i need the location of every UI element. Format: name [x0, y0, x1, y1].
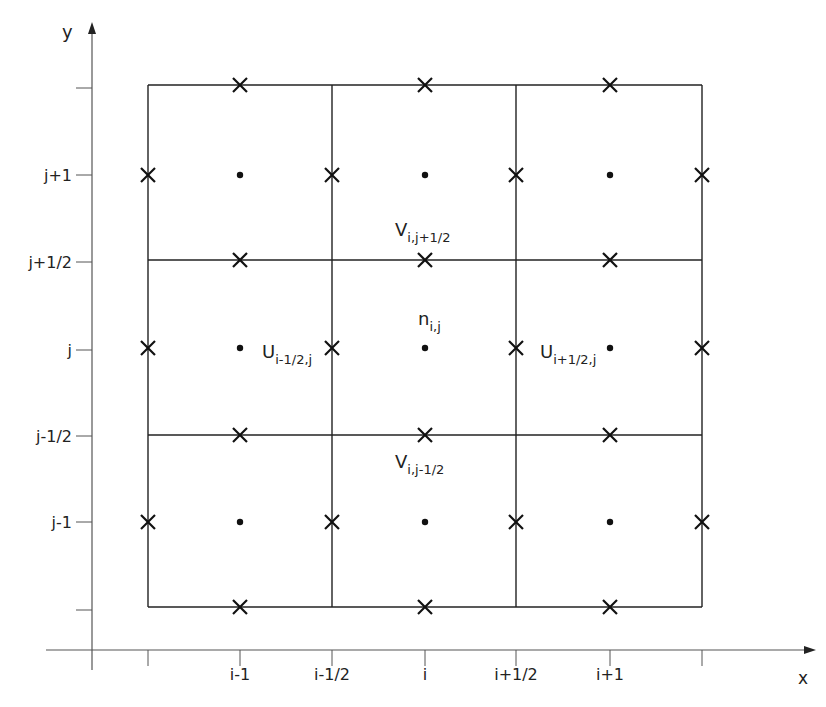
- dot-icon: [237, 345, 243, 351]
- dot-icon: [607, 345, 613, 351]
- y-tick-label: j-1: [51, 513, 72, 532]
- dot-icon: [607, 172, 613, 178]
- grid-annotation: Ui+1/2,j: [540, 341, 596, 367]
- diagram-svg: yx j+1j+1/2jj-1/2j-1i-1i-1/2ii+1/2i+1 Vi…: [0, 0, 826, 707]
- x-tick-label: i+1/2: [494, 665, 538, 684]
- y-axis-arrow-icon: [88, 22, 96, 34]
- dot-icon: [422, 345, 428, 351]
- x-axis-label: x: [798, 668, 808, 688]
- x-tick-label: i+1: [596, 665, 624, 684]
- dot-icon: [237, 519, 243, 525]
- grid-annotation: Vi,j+1/2: [395, 219, 451, 245]
- staggered-grid-diagram: yx j+1j+1/2jj-1/2j-1i-1i-1/2ii+1/2i+1 Vi…: [0, 0, 826, 707]
- dot-icon: [607, 519, 613, 525]
- y-tick-label: j: [67, 341, 72, 360]
- dot-icon: [422, 172, 428, 178]
- y-tick-label: j+1: [43, 166, 72, 185]
- y-tick-label: j-1/2: [35, 427, 72, 446]
- dot-icon: [422, 519, 428, 525]
- x-tick-label: i: [423, 665, 427, 684]
- y-axis-label: y: [62, 21, 73, 42]
- y-tick-label: j+1/2: [27, 253, 72, 272]
- axes: yx: [46, 21, 816, 688]
- grid-annotation: Vi,j-1/2: [395, 451, 444, 477]
- dot-icon: [237, 172, 243, 178]
- x-tick-label: i-1: [230, 665, 250, 684]
- grid-annotation: Ui-1/2,j: [262, 341, 312, 367]
- x-axis-arrow-icon: [804, 646, 816, 654]
- x-tick-label: i-1/2: [314, 665, 350, 684]
- grid-annotation: ni,j: [418, 308, 441, 334]
